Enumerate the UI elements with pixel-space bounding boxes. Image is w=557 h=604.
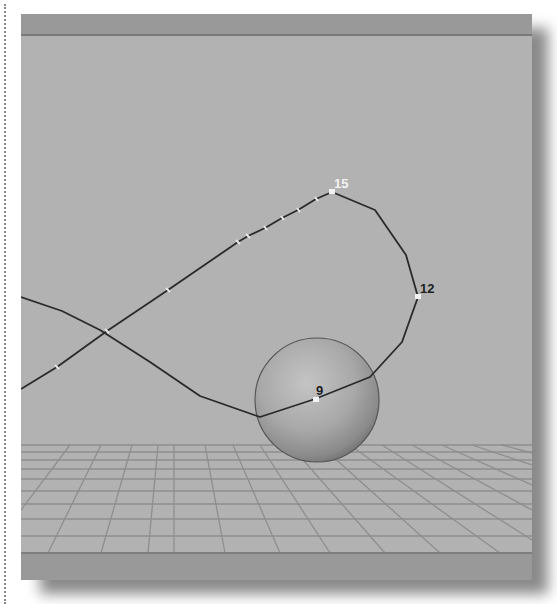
frame-label-12: 12	[420, 281, 434, 296]
floor-grid	[21, 445, 532, 553]
viewport-bottom-bar	[21, 552, 532, 580]
3d-viewport[interactable]: 15 12 9	[21, 14, 532, 580]
frame-tick-markers	[55, 197, 318, 369]
scene-canvas[interactable]: 15 12 9	[21, 14, 532, 580]
frame-label-9: 9	[316, 383, 323, 398]
frame-label-15: 15	[334, 176, 348, 191]
page-margin-dotted-rule	[4, 4, 6, 604]
